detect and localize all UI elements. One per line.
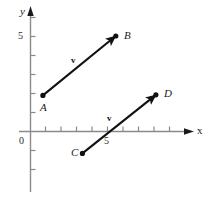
x-tick-label-5: 5 (104, 136, 109, 146)
x-axis-arrowhead (184, 128, 194, 134)
point-dot-c (80, 151, 85, 156)
x-axis-label: x (197, 125, 203, 136)
point-dot-d (153, 92, 158, 97)
vector-label-cd: v (107, 114, 112, 123)
y-axis-arrowhead (27, 6, 33, 16)
vector-diagram-figure: y x 0 5 5 A B C D v v (0, 0, 208, 197)
y-tick-label-5: 5 (18, 31, 23, 41)
point-dot-a (40, 93, 45, 98)
origin-label: 0 (19, 136, 24, 146)
vector-segment-ab (43, 37, 115, 96)
y-axis-ticks (31, 18, 36, 170)
coordinate-plane-svg (0, 0, 208, 197)
vector-label-ab: v (71, 56, 76, 65)
y-axis-label: y (20, 6, 25, 17)
point-label-b: B (124, 30, 131, 41)
vector-segment-cd (82, 95, 155, 153)
point-label-a: A (40, 102, 47, 113)
point-label-d: D (164, 88, 172, 99)
point-label-c: C (71, 147, 78, 158)
x-axis-ticks (46, 127, 170, 132)
point-dot-b (113, 33, 118, 38)
